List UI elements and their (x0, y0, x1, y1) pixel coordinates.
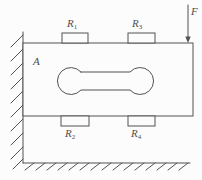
strain-gauge-r2 (61, 116, 89, 126)
force-arrowhead-icon (185, 37, 190, 44)
plate-label-text: A (33, 55, 40, 67)
bone-slot-hole (57, 67, 153, 94)
gauge-label-r1-base: R (67, 17, 74, 29)
strain-gauge-plate-diagram: A F R1 R3 R2 R4 (0, 0, 202, 180)
gauge-label-r3: R3 (132, 18, 142, 31)
gauge-label-r3-sub: 3 (139, 23, 143, 31)
plate-label: A (33, 56, 40, 67)
diagram-canvas (0, 0, 202, 180)
gauge-label-r4-sub: 4 (138, 133, 142, 141)
gauge-label-r4: R4 (131, 128, 141, 141)
gauge-label-r4-base: R (131, 127, 138, 139)
wall-hatching-icon (11, 35, 23, 169)
force-label-text: F (191, 5, 198, 17)
gauge-label-r2: R2 (65, 128, 75, 141)
gauge-label-r2-sub: 2 (72, 133, 76, 141)
force-label: F (191, 6, 198, 17)
gauge-label-r1-sub: 1 (74, 23, 78, 31)
strain-gauge-r4 (128, 116, 155, 126)
ground-hatching-icon (25, 163, 188, 170)
gauge-label-r1: R1 (67, 18, 77, 31)
strain-gauge-r3 (128, 33, 155, 43)
gauge-label-r2-base: R (65, 127, 72, 139)
gauge-label-r3-base: R (132, 17, 139, 29)
strain-gauge-r1 (62, 33, 88, 43)
